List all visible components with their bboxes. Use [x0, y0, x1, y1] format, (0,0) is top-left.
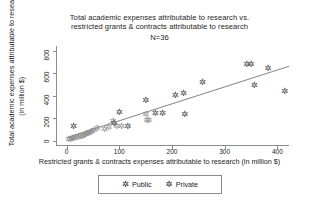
data-point-private: ✲ [199, 79, 206, 86]
data-point-private: ✲ [142, 97, 149, 104]
data-point-public: ✲ [101, 126, 108, 133]
legend-marker-public-icon: ✲ [122, 180, 129, 189]
x-tick-label-200: 200 [157, 148, 187, 155]
data-point-private: ✲ [248, 61, 255, 68]
x-axis-title: Restricted grants & contracts expenses a… [0, 157, 319, 166]
plot-area: ✲✲✲✲✲✲✲✲✲✲✲✲✲✲✲✲✲✲✲✲✲✲✲✲✲✲✲✲✲✲✲✲✲✲✲✲✲✲✲✲ [56, 46, 288, 145]
legend: ✲ Public ✲ Private [98, 175, 222, 194]
data-point-private: ✲ [70, 123, 77, 130]
data-point-public: ✲ [145, 117, 152, 124]
data-point-public: ✲ [143, 117, 150, 124]
chart-title: Total academic expenses attributable to … [0, 13, 319, 43]
y-axis-title-line-1: Total academic expenses attributable to … [8, 46, 17, 146]
y-axis-title-line-2: (in million $) [18, 46, 27, 146]
data-point-private: ✲ [152, 110, 159, 117]
y-axis-title: Total academic expenses attributable to … [6, 46, 17, 146]
data-point-private: ✲ [180, 90, 187, 97]
data-point-private: ✲ [243, 61, 250, 68]
x-tick-label-400: 400 [262, 148, 292, 155]
y-tick-label-800: 800 [43, 49, 50, 95]
sample-size-annotation: N=36 [0, 33, 319, 43]
data-point-private: ✲ [124, 123, 131, 130]
scatter-plot-figure: Total academic expenses attributable to … [0, 0, 319, 205]
x-tick-label-100: 100 [104, 148, 134, 155]
data-point-private: ✲ [172, 92, 179, 99]
data-point-private: ✲ [116, 109, 123, 116]
legend-item-private: ✲ Private [166, 180, 199, 189]
legend-label-public: Public [132, 180, 152, 189]
x-tick-label-0: 0 [52, 148, 82, 155]
data-point-private: ✲ [181, 111, 188, 118]
data-point-private: ✲ [281, 88, 288, 95]
data-point-public: ✲ [113, 123, 120, 130]
data-point-private: ✲ [159, 110, 166, 117]
regression-fit-line [67, 66, 289, 138]
legend-item-public: ✲ Public [122, 180, 152, 189]
x-tick-label-300: 300 [210, 148, 240, 155]
chart-title-line-2: restricted grants & contracts attributab… [0, 22, 319, 31]
legend-marker-private-icon: ✲ [166, 180, 173, 189]
chart-title-line-1: Total academic expenses attributable to … [0, 13, 319, 22]
legend-label-private: Private [176, 180, 198, 189]
data-point-public: ✲ [118, 123, 125, 130]
data-point-private: ✲ [251, 82, 258, 89]
